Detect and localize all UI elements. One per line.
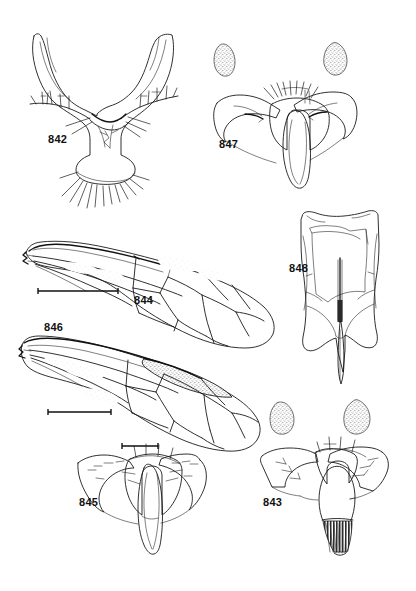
figure-847-artwork	[214, 43, 357, 189]
figure-848-artwork	[301, 211, 379, 384]
figure-label-845: 845	[79, 496, 98, 508]
illustration-plate: 842 847 844 846 848 845 843	[0, 0, 416, 591]
figure-846-artwork	[19, 336, 260, 451]
figure-label-843: 843	[263, 496, 282, 508]
satellite-blob-left-843	[270, 402, 294, 434]
satellite-blob-right-847	[324, 43, 347, 76]
satellite-blob-left-847	[214, 44, 235, 76]
satellite-blob-right-843	[344, 400, 370, 435]
figure-label-846: 846	[44, 321, 63, 333]
figure-label-847: 847	[219, 138, 238, 150]
figure-842-artwork	[30, 34, 178, 208]
figure-label-842: 842	[48, 133, 67, 145]
figure-843-artwork	[261, 400, 389, 556]
ventral-setal-fringe	[60, 172, 149, 208]
figure-label-844: 844	[134, 294, 153, 306]
plate-artwork	[0, 0, 416, 591]
figure-label-848: 848	[289, 262, 308, 274]
